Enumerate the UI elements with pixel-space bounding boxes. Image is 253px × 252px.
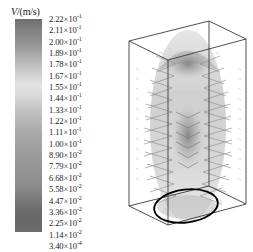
tick-mantissa: 2.11	[49, 25, 63, 35]
tick-base: 10	[69, 48, 77, 58]
tick-base: 10	[69, 37, 77, 47]
tick-exponent: -1	[77, 58, 82, 65]
tick-exponent: -1	[77, 103, 82, 110]
tick-mantissa: 1.89	[49, 48, 63, 58]
colorbar-tick-list: 2.22×10-12.11×10-12.00×10-11.89×10-11.78…	[49, 14, 113, 252]
tick-mantissa: 1.78	[49, 59, 63, 69]
tick-base: 10	[68, 127, 76, 137]
tick-base: 10	[69, 207, 77, 217]
tick-mantissa: 2.00	[49, 37, 63, 47]
tick-exponent: -2	[77, 171, 82, 178]
colorbar-gradient	[15, 19, 42, 232]
plume-dome-core	[162, 48, 214, 80]
tick-base: 10	[69, 150, 77, 160]
tick-exponent: -1	[77, 46, 82, 53]
tick-base: 10	[69, 82, 77, 92]
tick-exponent: -1	[77, 69, 82, 76]
tick-mantissa: 1.00	[49, 139, 63, 149]
tick-base: 10	[69, 196, 77, 206]
tick-mantissa: 1.55	[49, 82, 63, 92]
tick-exponent: -1	[77, 35, 82, 42]
tick-mantissa: 4.47	[49, 196, 63, 206]
tick-base: 10	[69, 218, 77, 228]
tick-exponent: -1	[77, 126, 82, 133]
tick-base: 10	[69, 105, 77, 115]
tick-mantissa: 1.14	[49, 230, 63, 240]
tick-exponent: -4	[77, 239, 82, 246]
tick-base: 10	[69, 71, 77, 81]
tick-exponent: -2	[77, 182, 82, 189]
tick-base: 10	[69, 161, 77, 171]
tick-base: 10	[69, 93, 77, 103]
tick-exponent: -2	[77, 194, 82, 201]
tick-base: 10	[69, 139, 77, 149]
colorbar-legend: V/(m/s) 2.22×10-12.11×10-12.00×10-11.89×…	[0, 0, 118, 247]
tick-mantissa: 6.68	[49, 173, 63, 183]
tick-base: 10	[69, 184, 77, 194]
tick-base: 10	[69, 230, 77, 240]
tick-exponent: -2	[77, 205, 82, 212]
tick-mantissa: 3.36	[49, 207, 63, 217]
tick-base: 10	[69, 173, 77, 183]
tick-exponent: -1	[77, 137, 82, 144]
vector-field-plot	[112, 8, 253, 244]
tick-exponent: -2	[77, 160, 82, 167]
tick-base: 10	[68, 25, 76, 35]
tick-mantissa: 7.79	[49, 161, 63, 171]
tick-exponent: -2	[77, 148, 82, 155]
tick-mantissa: 1.33	[49, 105, 63, 115]
tick-exponent: -2	[77, 228, 82, 235]
colorbar-tick: 3.40×10-4	[49, 241, 113, 252]
legend-title-unit: /(m/s)	[17, 6, 40, 17]
tick-exponent: -2	[77, 216, 82, 223]
tick-mantissa: 2.25	[49, 218, 63, 228]
tick-mantissa: 5.58	[49, 184, 63, 194]
tick-base: 10	[69, 59, 77, 69]
tick-mantissa: 1.11	[49, 127, 63, 137]
tick-exponent: -1	[77, 92, 82, 99]
tick-mantissa: 8.90	[49, 150, 63, 160]
tick-mantissa: 1.44	[49, 93, 63, 103]
tick-mantissa: 1.22	[49, 116, 63, 126]
tick-mantissa: 1.67	[49, 71, 63, 81]
velocity-field-group	[136, 30, 241, 222]
legend-title: V/(m/s)	[11, 6, 40, 17]
tick-mantissa: 2.22	[49, 14, 63, 24]
tick-mantissa: 3.40	[49, 241, 63, 251]
tick-exponent: -1	[77, 80, 82, 87]
tick-exponent: -1	[77, 23, 82, 30]
tick-exponent: -1	[77, 12, 82, 19]
plot-svg	[112, 8, 253, 244]
tick-exponent: -1	[77, 114, 82, 121]
tick-base: 10	[69, 241, 77, 251]
